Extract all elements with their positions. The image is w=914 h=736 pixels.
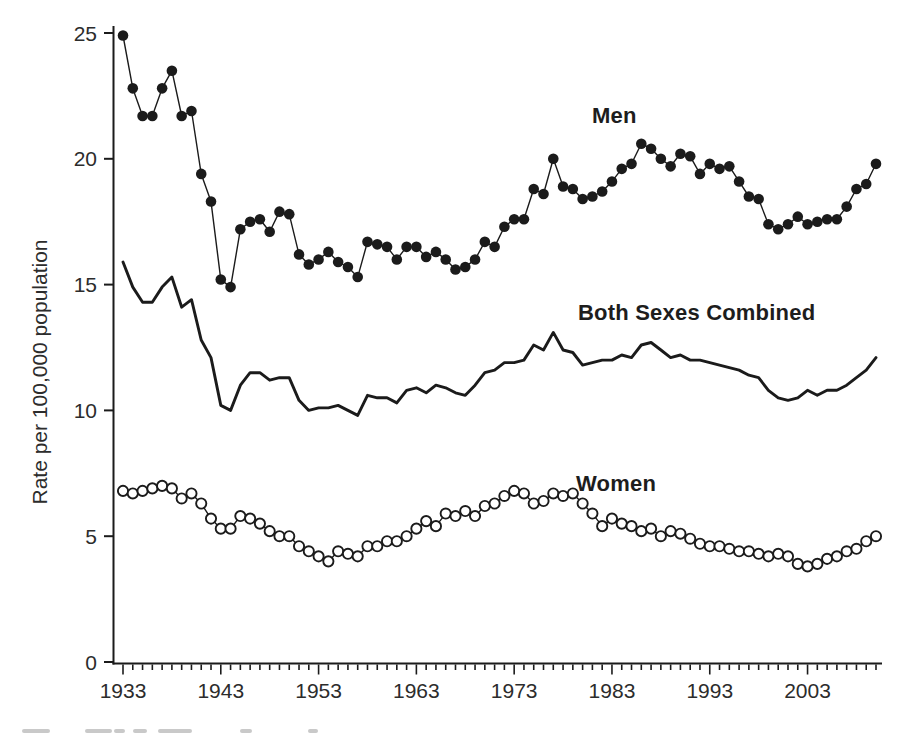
men-point (704, 159, 715, 170)
cropped-caption-fragment (308, 729, 318, 733)
men-point (851, 184, 862, 195)
x-tick-label: 1993 (686, 679, 733, 702)
men-point (812, 216, 823, 227)
men-point (323, 247, 334, 258)
men-point (392, 254, 403, 265)
women-point (245, 513, 255, 523)
cropped-caption-fragment (114, 729, 125, 733)
men-point (538, 189, 549, 200)
men-series-label: Men (592, 103, 637, 129)
women-point (538, 496, 548, 506)
women-point (666, 526, 676, 536)
men-point (176, 111, 187, 122)
women-point (294, 541, 304, 551)
women-point (675, 529, 685, 539)
men-point (245, 216, 256, 227)
men-point (792, 211, 803, 222)
men-point (587, 191, 598, 202)
women-point (343, 549, 353, 559)
men-point (274, 206, 285, 217)
women-point (832, 551, 842, 561)
women-series-label: Women (576, 471, 656, 497)
women-point (558, 491, 568, 501)
women-point (656, 531, 666, 541)
women-point (578, 498, 588, 508)
women-point (499, 491, 509, 501)
women-point (255, 519, 265, 529)
men-point (636, 138, 647, 149)
men-point (607, 176, 618, 187)
men-point (773, 224, 784, 235)
men-point (499, 221, 510, 232)
men-point (157, 83, 168, 94)
men-point (616, 164, 627, 175)
women-point (490, 498, 500, 508)
men-point (450, 264, 461, 275)
men-point (235, 224, 246, 235)
both-sexes-series-label: Both Sexes Combined (578, 300, 815, 326)
men-point (284, 209, 295, 220)
men-point (431, 247, 442, 258)
women-point (617, 519, 627, 529)
women-point (793, 559, 803, 569)
men-point (294, 249, 305, 260)
men-point (137, 111, 148, 122)
y-tick-label: 25 (74, 22, 97, 45)
women-point (304, 546, 314, 556)
men-point (822, 214, 833, 225)
men-point (646, 143, 657, 154)
women-point (587, 508, 597, 518)
women-point (812, 559, 822, 569)
women-point (802, 561, 812, 571)
women-point (265, 526, 275, 536)
women-point (460, 506, 470, 516)
men-point (470, 254, 481, 265)
men-point (411, 242, 422, 253)
women-point (626, 521, 636, 531)
women-point (313, 551, 323, 561)
women-point (186, 488, 196, 498)
women-point (822, 554, 832, 564)
x-tick-label: 1933 (100, 679, 147, 702)
cropped-caption-fragment (85, 729, 112, 733)
women-point (705, 541, 715, 551)
women-point (274, 531, 284, 541)
men-point (871, 159, 882, 170)
y-tick-label: 5 (85, 525, 97, 548)
cropped-caption-fragment (240, 729, 252, 733)
women-point (392, 536, 402, 546)
figure: 0510152025193319431953196319731983199320… (0, 0, 914, 736)
men-point (382, 242, 393, 253)
women-point (323, 556, 333, 566)
women-point (362, 541, 372, 551)
women-point (421, 516, 431, 526)
women-point (216, 524, 226, 534)
y-axis-ticks: 0510152025 (74, 22, 114, 674)
men-point (225, 282, 236, 293)
men-point (127, 83, 138, 94)
y-tick-label: 0 (85, 651, 97, 674)
both-sexes-combined-series (123, 262, 876, 415)
women-point (724, 544, 734, 554)
men-point (401, 242, 412, 253)
cropped-caption-fragment (158, 729, 192, 733)
men-point (783, 219, 794, 230)
women-point (871, 531, 881, 541)
men-point (362, 237, 373, 248)
cropped-caption-fragment (22, 729, 50, 733)
women-point (851, 544, 861, 554)
men-point (802, 219, 813, 230)
men-point (626, 159, 637, 170)
men-point (480, 237, 491, 248)
men-point (147, 111, 158, 122)
women-point (225, 524, 235, 534)
women-point (714, 541, 724, 551)
men-point (304, 259, 315, 270)
women-point (167, 483, 177, 493)
women-point (372, 541, 382, 551)
both-sexes-combined-line (123, 262, 876, 415)
x-tick-label: 1973 (491, 679, 538, 702)
women-point (529, 498, 539, 508)
men-point (440, 254, 451, 265)
x-tick-label: 1943 (197, 679, 244, 702)
